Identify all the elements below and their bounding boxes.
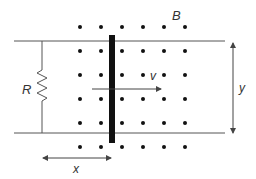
- resistor-label: R: [22, 83, 31, 96]
- magnetic-field-dots: [78, 25, 187, 149]
- rail-circuit-diagram: [0, 0, 256, 179]
- resistor-icon: [37, 41, 47, 133]
- rail-separation-label: y: [239, 82, 245, 94]
- displacement-label: x: [73, 163, 79, 175]
- magnetic-field-label: B: [172, 9, 181, 22]
- velocity-label: v: [150, 70, 156, 82]
